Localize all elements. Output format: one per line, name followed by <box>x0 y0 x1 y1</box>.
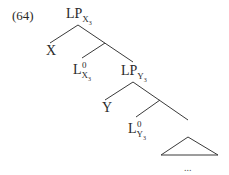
triangle-icon <box>161 137 218 155</box>
node-root-subsub: 3 <box>89 20 92 26</box>
node-head-y-base: L <box>128 121 137 136</box>
triangle-ellipsis: ... <box>184 163 192 173</box>
branch-root-right <box>78 25 133 62</box>
syntax-tree-diagram: (64) LPX3 X L0X3 LPY3 Y L0Y3 ... <box>0 0 229 175</box>
node-head-y-sub: Y3 <box>137 129 147 139</box>
node-lp-y-subsub: 3 <box>144 77 147 83</box>
node-head-x-base: L <box>73 62 82 77</box>
node-lp-y-sub: Y3 <box>137 71 147 81</box>
node-head-y-subsub: 3 <box>143 135 146 141</box>
branch-root-left <box>50 25 78 43</box>
node-root-sub-text: X <box>82 14 89 24</box>
branch-intermediate2-head <box>136 100 160 117</box>
node-root: LPX3 <box>66 7 92 23</box>
branch-intermediate1-head <box>82 43 105 58</box>
node-root-base: LP <box>66 6 82 21</box>
node-head-y: L0Y3 <box>128 122 146 138</box>
node-head-x-subsub: 3 <box>88 76 91 82</box>
node-lp-y: LPY3 <box>121 64 147 80</box>
example-number: (64) <box>12 9 34 22</box>
node-head-x-sub: X3 <box>82 70 92 80</box>
node-lp-y-sub-text: Y <box>137 71 144 81</box>
node-root-sub: X3 <box>82 14 92 24</box>
branch-lpy-left <box>105 82 133 100</box>
node-x: X <box>46 44 56 58</box>
node-head-x: L0X3 <box>73 63 91 79</box>
tree-branches <box>0 0 229 175</box>
node-y: Y <box>102 101 112 115</box>
branch-lpy-right <box>133 82 188 120</box>
node-lp-y-base: LP <box>121 63 137 78</box>
